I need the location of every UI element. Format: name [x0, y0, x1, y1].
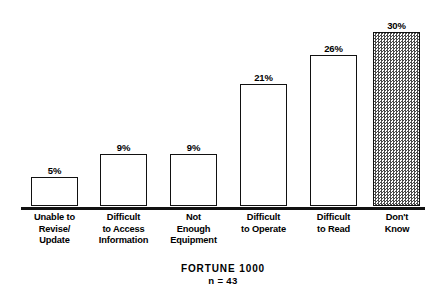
bar-group: 5%	[31, 176, 78, 206]
x-axis-label-difficult-to-operate: Difficult to Operate	[222, 212, 305, 235]
x-axis-label-line: Difficult	[295, 212, 372, 224]
bar-value-label: 30%	[387, 21, 406, 31]
bar-chart: 5% 9% 9% 21% 26% 30%	[0, 0, 446, 300]
bar-rect[interactable]	[373, 32, 420, 206]
bar-rect[interactable]	[170, 154, 217, 206]
footer-sample-size-label: n = 43	[0, 275, 446, 287]
bar-value-label: 9%	[187, 143, 201, 153]
x-axis-label-line: Know	[362, 224, 432, 236]
chart-footer: FORTUNE 1000 n = 43	[0, 262, 446, 287]
bar-rect[interactable]	[100, 154, 147, 206]
bar-rect[interactable]	[310, 55, 357, 206]
bar-group-highlighted: 30%	[373, 28, 420, 206]
x-axis-label-line: to Read	[295, 224, 372, 236]
bar-group: 21%	[240, 80, 287, 206]
bar-value-label: 9%	[117, 143, 131, 153]
bar-value-label: 21%	[254, 73, 273, 83]
bar-group: 9%	[170, 150, 217, 206]
bar-rect[interactable]	[31, 177, 78, 206]
bar-group: 26%	[310, 51, 357, 206]
bar-value-label: 26%	[324, 44, 343, 54]
x-axis-category-labels: Unable to Revise/ Update Difficult to Ac…	[0, 210, 446, 258]
bar-group: 9%	[100, 150, 147, 206]
x-axis-label-line: to Operate	[222, 224, 305, 236]
x-axis-label-line: Equipment	[150, 235, 237, 247]
x-axis-label-difficult-to-read: Difficult to Read	[295, 212, 372, 235]
x-axis-label-dont-know: Don't Know	[362, 212, 432, 235]
bar-value-label: 5%	[48, 166, 62, 176]
x-axis-label-line: Difficult	[222, 212, 305, 224]
footer-source-label: FORTUNE 1000	[0, 262, 446, 275]
plot-area: 5% 9% 9% 21% 26% 30%	[0, 0, 446, 210]
bar-rect[interactable]	[240, 84, 287, 206]
x-axis-label-line: Don't	[362, 212, 432, 224]
